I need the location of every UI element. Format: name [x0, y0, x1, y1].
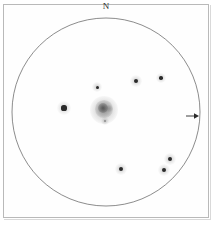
east-direction-arrow: [186, 107, 200, 117]
eyepiece-sketch-figure: N: [0, 0, 215, 227]
nebula-mottling: [105, 105, 113, 112]
star-upper-mid: [134, 79, 138, 83]
north-orientation-label: N: [98, 1, 114, 12]
star-left-bright: [61, 105, 66, 110]
star-upper-center: [96, 86, 99, 89]
star-upper-right: [159, 76, 163, 80]
star-lower-right-a: [168, 157, 172, 161]
star-below-nebula: [104, 120, 106, 122]
arrow-head: [194, 113, 199, 119]
